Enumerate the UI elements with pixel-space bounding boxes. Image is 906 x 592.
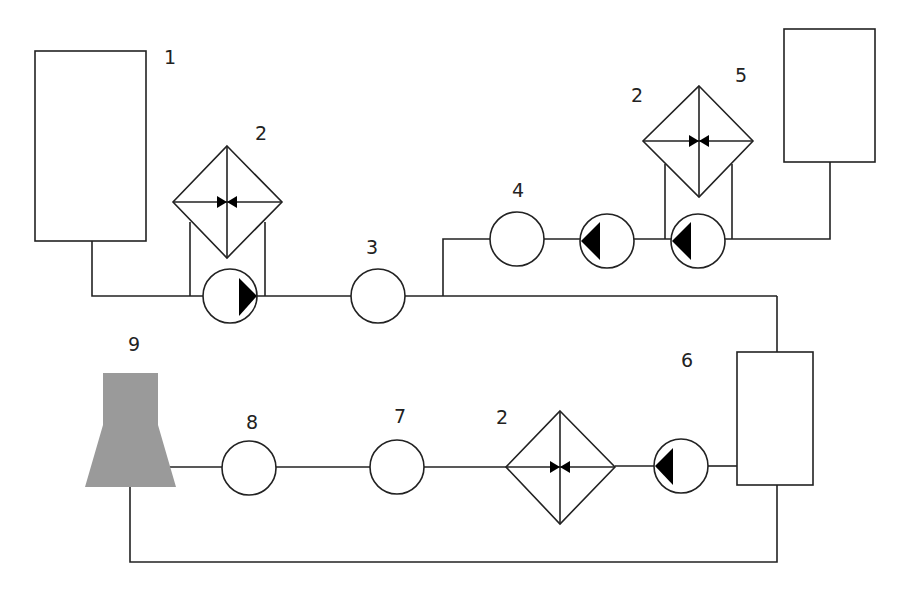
component-3: [351, 269, 405, 323]
tank-6: [737, 352, 813, 485]
label-8: 8: [246, 411, 258, 433]
tank-5: [784, 29, 875, 162]
pipe-return: [130, 485, 777, 562]
component-4: [490, 212, 544, 266]
component-8: [222, 441, 276, 495]
pipe-to-tank5: [725, 162, 830, 239]
label-6: 6: [681, 349, 693, 371]
label-1: 1: [164, 46, 176, 68]
tank-1: [35, 51, 146, 241]
process-diagram: 1 2 3 4 2 5 6 2 7 8 9: [0, 0, 906, 592]
label-7: 7: [394, 405, 406, 427]
component-7: [370, 440, 424, 494]
cooling-tower-9: [85, 373, 176, 487]
label-2-bottom: 2: [496, 406, 508, 428]
label-2-left: 2: [255, 122, 267, 144]
pipe-tank1-out: [92, 241, 203, 296]
label-2-right: 2: [631, 84, 643, 106]
pipe-junction-up: [443, 239, 490, 296]
label-4: 4: [512, 179, 524, 201]
label-9: 9: [128, 333, 140, 355]
label-3: 3: [366, 236, 378, 258]
filter-valve-bottom: [506, 411, 615, 524]
label-5: 5: [735, 64, 747, 86]
